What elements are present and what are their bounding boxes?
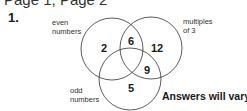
label-line: numbers — [70, 95, 99, 104]
region-odd-only: 5 — [128, 82, 134, 94]
label-line: even — [52, 18, 81, 27]
label-line: odd — [70, 86, 99, 95]
label-odd-numbers: odd numbers — [70, 86, 99, 104]
answers-note: Answers will vary. — [162, 90, 247, 102]
label-line: of 3 — [183, 26, 213, 35]
circle-even-numbers — [81, 18, 143, 80]
label-even-numbers: even numbers — [52, 18, 81, 36]
region-even-and-multiples: 6 — [128, 35, 134, 47]
label-line: multiples — [183, 17, 213, 26]
region-multiples-only: 12 — [151, 42, 163, 54]
region-multiples-and-odd: 9 — [144, 64, 150, 76]
label-line: numbers — [52, 27, 81, 36]
label-multiples-of-3: multiples of 3 — [183, 17, 213, 35]
region-even-only: 2 — [101, 42, 107, 54]
